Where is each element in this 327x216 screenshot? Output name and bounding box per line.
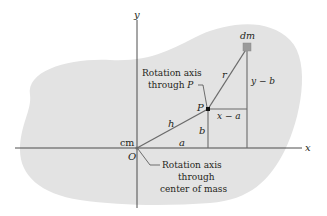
label-a: a (179, 137, 185, 148)
cm-label: cm (120, 137, 134, 148)
label-h: h (168, 118, 174, 129)
parallel-axis-diagram: y x dm P cm O h r a b x − a y − b Rotati… (0, 0, 327, 216)
point-p-marker (206, 107, 210, 111)
callout-axis-p-line2: through P (148, 80, 194, 90)
dm-label: dm (240, 30, 255, 41)
x-axis-label: x (305, 142, 311, 153)
callout-axis-p-line1: Rotation axis (142, 68, 202, 78)
dm-mass-element (243, 43, 251, 51)
y-axis-label: y (133, 9, 140, 20)
label-y-minus-b: y − b (250, 76, 275, 86)
rigid-body-shape (20, 24, 302, 205)
callout-axis-cm-line2: through (178, 172, 215, 182)
point-p-label: P (196, 102, 204, 113)
callout-axis-cm-line1: Rotation axis (162, 160, 222, 170)
callout-axis-cm-line3: center of mass (160, 184, 227, 194)
origin-label: O (128, 151, 136, 162)
label-x-minus-a: x − a (217, 111, 241, 121)
label-b: b (199, 125, 205, 136)
